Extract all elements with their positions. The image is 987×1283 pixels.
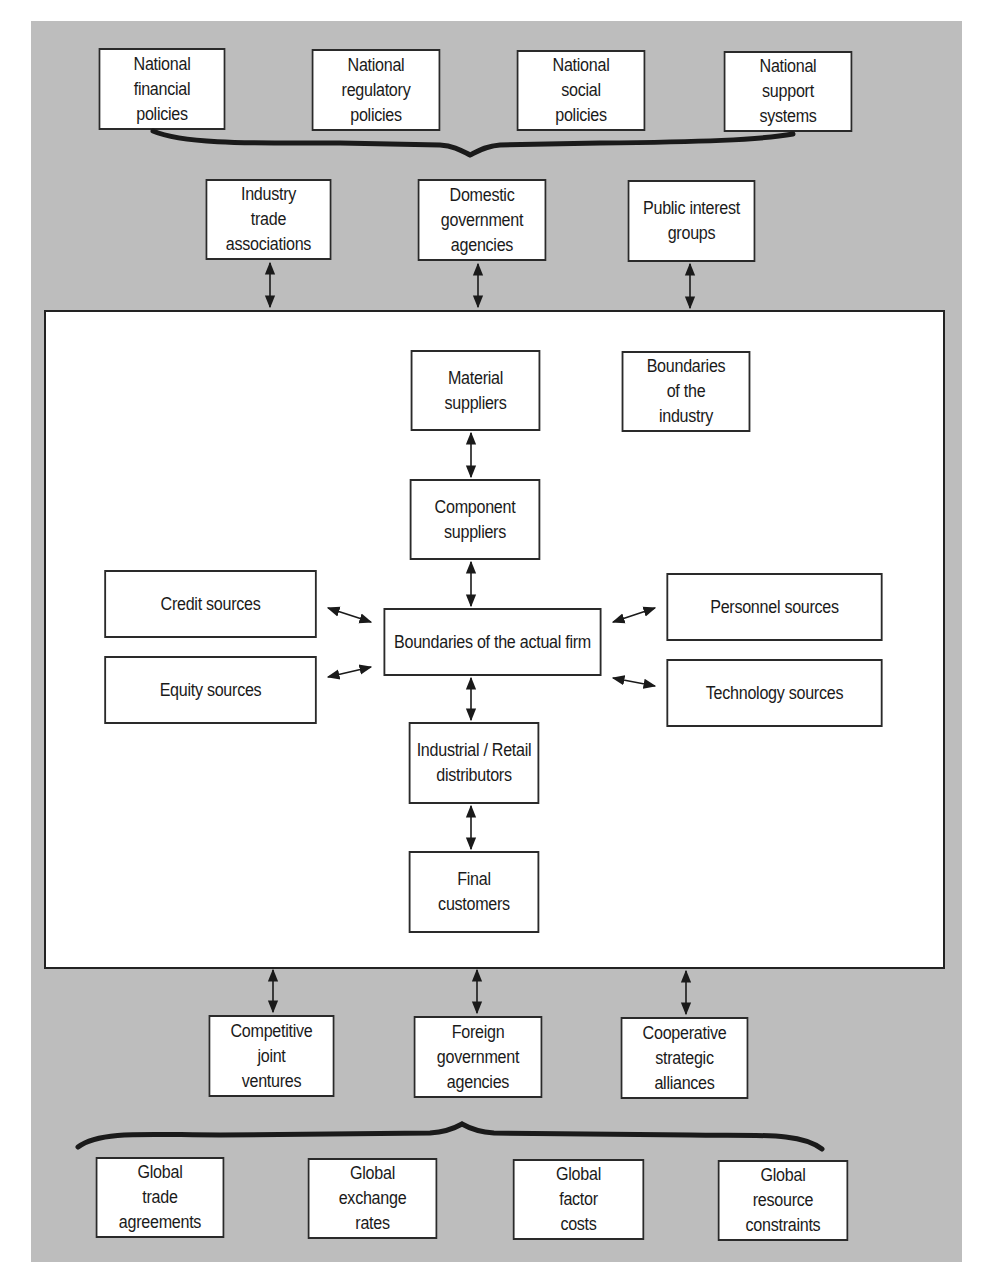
box-label: Material suppliers bbox=[445, 366, 507, 416]
boundaries-of-industry-label: Boundaries of the industry bbox=[622, 351, 751, 432]
final-customers-box: Final customers bbox=[409, 851, 540, 933]
box-label: Global factor costs bbox=[556, 1162, 601, 1237]
competitive-joint-ventures-box: Competitive joint ventures bbox=[208, 1015, 334, 1097]
equity-sources-box: Equity sources bbox=[104, 656, 317, 724]
box-label: Global resource constraints bbox=[746, 1163, 821, 1238]
box-label: Domestic government agencies bbox=[441, 183, 523, 258]
box-label: Technology sources bbox=[706, 681, 843, 706]
national-financial-policies-box: National financial policies bbox=[99, 48, 226, 130]
public-interest-groups-box: Public interest groups bbox=[628, 180, 756, 262]
global-exchange-rates-box: Global exchange rates bbox=[308, 1158, 438, 1239]
technology-sources-box: Technology sources bbox=[666, 659, 882, 727]
box-label: National social policies bbox=[553, 53, 610, 128]
global-factor-costs-box: Global factor costs bbox=[513, 1159, 645, 1240]
box-label: Boundaries of the actual firm bbox=[394, 630, 591, 655]
material-suppliers-box: Material suppliers bbox=[411, 350, 541, 431]
box-label: National regulatory policies bbox=[342, 53, 411, 128]
box-label: Boundaries of the industry bbox=[647, 354, 726, 429]
box-label: National financial policies bbox=[134, 52, 191, 127]
national-support-systems-box: National support systems bbox=[724, 51, 853, 132]
box-label: Credit sources bbox=[161, 592, 261, 617]
box-label: Final customers bbox=[438, 867, 510, 917]
industry-trade-associations-box: Industry trade associations bbox=[205, 179, 331, 260]
national-regulatory-policies-box: National regulatory policies bbox=[312, 49, 441, 131]
box-label: Public interest groups bbox=[643, 196, 740, 246]
box-label: Industrial / Retail distributors bbox=[417, 738, 532, 788]
box-label: Competitive joint ventures bbox=[231, 1019, 313, 1094]
industrial-retail-distributors-box: Industrial / Retail distributors bbox=[409, 722, 540, 804]
box-label: Equity sources bbox=[160, 678, 262, 703]
personnel-sources-box: Personnel sources bbox=[666, 573, 882, 641]
box-label: Foreign government agencies bbox=[437, 1020, 519, 1095]
global-trade-agreements-box: Global trade agreements bbox=[96, 1157, 225, 1238]
component-suppliers-box: Component suppliers bbox=[410, 479, 541, 560]
actual-firm-box: Boundaries of the actual firm bbox=[383, 608, 601, 676]
box-label: Cooperative strategic alliances bbox=[643, 1021, 727, 1096]
box-label: National support systems bbox=[759, 54, 816, 129]
box-label: Global trade agreements bbox=[119, 1160, 201, 1235]
credit-sources-box: Credit sources bbox=[104, 570, 317, 638]
box-label: Industry trade associations bbox=[226, 182, 311, 257]
domestic-government-agencies-box: Domestic government agencies bbox=[418, 179, 547, 261]
box-label: Component suppliers bbox=[435, 495, 516, 545]
national-social-policies-box: National social policies bbox=[517, 50, 646, 131]
cooperative-strategic-alliances-box: Cooperative strategic alliances bbox=[621, 1017, 749, 1099]
box-label: Personnel sources bbox=[710, 595, 839, 620]
global-resource-constraints-box: Global resource constraints bbox=[718, 1160, 849, 1241]
foreign-government-agencies-box: Foreign government agencies bbox=[414, 1016, 543, 1098]
box-label: Global exchange rates bbox=[339, 1161, 407, 1236]
